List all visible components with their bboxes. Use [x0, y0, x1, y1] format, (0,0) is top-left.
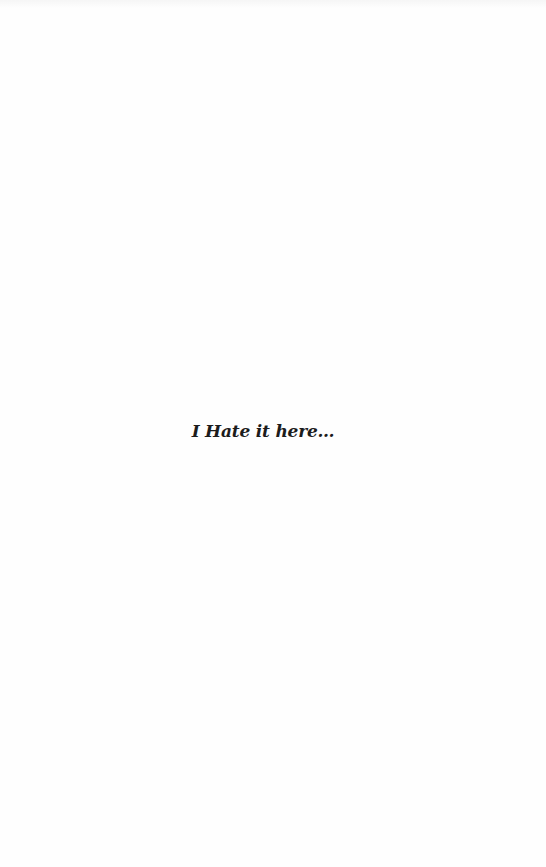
- book-page: I Hate it here…: [0, 0, 546, 867]
- epigraph-text: I Hate it here…: [0, 419, 526, 443]
- scan-show-through: [0, 0, 546, 8]
